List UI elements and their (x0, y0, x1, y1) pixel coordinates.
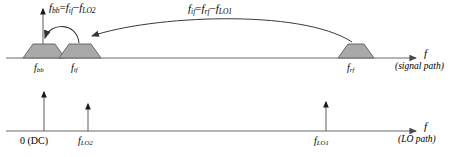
band-rf (338, 44, 374, 58)
band-if (59, 44, 101, 58)
signal-axis-label: f (424, 48, 427, 59)
lo-tick-label-dc: 0 (DC) (20, 136, 48, 146)
signal-tick-f-if-sub: if (74, 66, 78, 73)
spectrum-diagram: fbb=fif−fLO2 fif=frf−fLO1 fbb fif frf f … (0, 0, 460, 157)
signal-tick-label-f-if: fif (71, 63, 78, 74)
band-bb (23, 44, 65, 58)
diagram-canvas (0, 0, 460, 157)
lo-path-label: (LO path) (398, 135, 436, 145)
lo-tick-f-lo1-sub: LO1 (317, 139, 329, 146)
signal-path-label: (signal path) (395, 62, 444, 72)
equation-bb-lhs-sub: bb (52, 6, 59, 15)
equation-if: fif=frf−fLO1 (188, 3, 232, 15)
lo-tick-label-f-lo1: fLO1 (314, 136, 329, 147)
equation-if-t2-sub: LO1 (219, 7, 232, 16)
signal-tick-f-bb-sub: bb (37, 66, 44, 73)
signal-tick-label-f-bb: fbb (34, 63, 44, 74)
signal-tick-f-rf-sub: rf (350, 66, 355, 73)
arc-arrow-if-to-bb (45, 27, 79, 43)
signal-tick-label-f-rf: frf (347, 63, 354, 74)
equation-bb: fbb=fif−fLO2 (49, 2, 96, 14)
lo-tick-label-f-lo2: fLO2 (78, 136, 93, 147)
long-arrow-rf-to-if (92, 19, 352, 42)
equation-bb-t2-sub: LO2 (82, 6, 95, 15)
lo-axis-label: f (424, 121, 427, 132)
lo-tick-f-lo2-sub: LO2 (81, 139, 93, 146)
